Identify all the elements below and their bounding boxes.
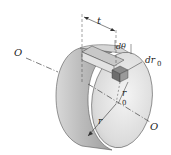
- label-outer-radius: r: [98, 116, 103, 126]
- label-r0-sub: 0: [122, 99, 126, 107]
- axis-line-left: [26, 58, 58, 72]
- label-thickness: t: [97, 15, 102, 26]
- label-axis-left: O: [14, 47, 22, 58]
- label-dr: dr: [145, 55, 156, 65]
- disk-diagram: O O t dθ dr 0 r 0 r: [0, 0, 171, 155]
- label-dr-sub: 0: [157, 60, 161, 68]
- t-arrow-left: [84, 17, 89, 20]
- label-r0: r: [122, 88, 127, 98]
- label-dtheta: dθ: [116, 42, 126, 51]
- t-arrow-right: [110, 28, 115, 31]
- label-axis-right: O: [150, 121, 158, 132]
